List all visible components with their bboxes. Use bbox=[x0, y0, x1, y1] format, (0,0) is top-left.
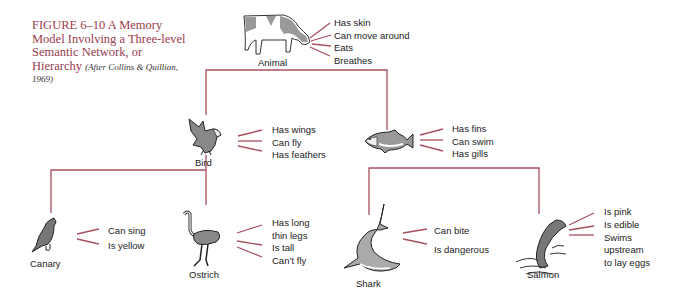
node-ostrich-properties: Has long thin legs Is tall Can’t fly bbox=[272, 217, 310, 267]
property: Swims bbox=[604, 232, 650, 245]
node-salmon-label: Salmon bbox=[527, 269, 559, 280]
property: Has fins bbox=[452, 123, 494, 136]
canary-icon bbox=[28, 216, 60, 254]
property: Is tall bbox=[272, 242, 310, 255]
property: Can move around bbox=[334, 30, 410, 43]
fish-icon bbox=[363, 128, 415, 154]
property: Can sing bbox=[108, 223, 146, 238]
node-canary-properties: Can sing Is yellow bbox=[108, 223, 146, 253]
property: Has feathers bbox=[272, 149, 326, 162]
property: Is dangerous bbox=[434, 240, 489, 259]
node-shark-label: Shark bbox=[356, 278, 381, 289]
shark-icon bbox=[340, 202, 408, 278]
edge-bird-children bbox=[51, 155, 206, 213]
property: Has gills bbox=[452, 148, 494, 161]
node-fish-properties: Has fins Can swim Has gills bbox=[452, 123, 494, 161]
node-salmon-properties: Is pink Is edible Swims upstream to lay … bbox=[604, 206, 650, 270]
cow-icon bbox=[240, 10, 312, 58]
property: Has wings bbox=[272, 124, 326, 137]
node-bird-label: Bird bbox=[195, 157, 212, 168]
property: Eats bbox=[334, 42, 410, 55]
property: to lay eggs bbox=[604, 257, 650, 270]
property: Has skin bbox=[334, 17, 410, 30]
edge-animal-children bbox=[206, 70, 387, 130]
node-animal-properties: Has skin Can move around Eats Breathes bbox=[334, 17, 410, 67]
node-ostrich-label: Ostrich bbox=[189, 269, 219, 280]
property: thin legs bbox=[272, 230, 310, 243]
node-animal-label: Animal bbox=[258, 57, 287, 68]
node-shark-properties: Can bite Is dangerous bbox=[434, 221, 489, 259]
property: Can fly bbox=[272, 137, 326, 150]
property: Breathes bbox=[334, 55, 410, 68]
eagle-icon bbox=[185, 117, 227, 157]
property: Is pink bbox=[604, 206, 650, 219]
property: upstream bbox=[604, 244, 650, 257]
property: Can’t fly bbox=[272, 255, 310, 268]
property: Has long bbox=[272, 217, 310, 230]
node-bird-properties: Has wings Can fly Has feathers bbox=[272, 124, 326, 162]
node-canary-label: Canary bbox=[30, 258, 61, 269]
property: Can bite bbox=[434, 221, 489, 240]
property: Is yellow bbox=[108, 238, 146, 253]
property: Is edible bbox=[604, 219, 650, 232]
property: Can swim bbox=[452, 136, 494, 149]
ostrich-icon bbox=[180, 210, 230, 270]
